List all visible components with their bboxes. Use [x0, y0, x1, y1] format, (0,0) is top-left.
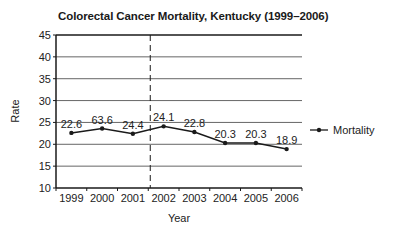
x-tick-label: 1999: [59, 192, 83, 204]
y-tick-label: 30: [39, 95, 51, 107]
y-tick-label: 10: [39, 182, 51, 194]
gridlines: [56, 35, 302, 166]
y-tick-label: 35: [39, 73, 51, 85]
x-tick-label: 2003: [182, 192, 206, 204]
y-axis-label: Rate: [9, 99, 21, 122]
data-label: 22.8: [184, 117, 205, 129]
data-point-marker: [131, 132, 135, 136]
y-axis-ticks: 1015202530354045: [39, 29, 56, 194]
data-label: 24.1: [153, 111, 174, 123]
x-tick-label: 2004: [213, 192, 237, 204]
x-tick-label: 2001: [121, 192, 145, 204]
y-tick-label: 20: [39, 138, 51, 150]
x-tick-label: 2000: [90, 192, 114, 204]
x-tick-label: 2005: [244, 192, 268, 204]
data-point-marker: [192, 130, 196, 134]
legend-marker-icon: [317, 128, 321, 132]
data-point-marker: [223, 141, 227, 145]
data-label: 22.6: [61, 118, 82, 130]
x-tick-label: 2006: [274, 192, 298, 204]
line-chart: 1015202530354045 19992000200120022003200…: [0, 0, 394, 235]
axes: [56, 35, 302, 188]
y-tick-label: 45: [39, 29, 51, 41]
data-point-marker: [100, 126, 104, 130]
data-point-marker: [161, 124, 165, 128]
x-axis-label: Year: [168, 212, 191, 224]
data-label: 63.6: [91, 114, 112, 126]
data-label: 20.3: [245, 128, 266, 140]
x-axis-ticks: 19992000200120022003200420052006: [56, 188, 302, 204]
y-tick-label: 40: [39, 51, 51, 63]
x-tick-label: 2002: [151, 192, 175, 204]
legend: Mortality: [310, 124, 375, 136]
data-point-marker: [284, 147, 288, 151]
data-label: 20.3: [214, 128, 235, 140]
data-point-marker: [69, 131, 73, 135]
legend-label-mortality: Mortality: [333, 124, 375, 136]
data-label: 24.4: [122, 119, 143, 131]
y-tick-label: 25: [39, 116, 51, 128]
data-label: 18.9: [276, 134, 297, 146]
data-point-marker: [254, 141, 258, 145]
y-tick-label: 15: [39, 160, 51, 172]
